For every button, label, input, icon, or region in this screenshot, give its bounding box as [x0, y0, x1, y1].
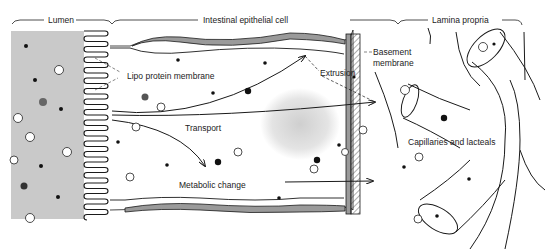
label-basement-line2: membrane — [373, 58, 414, 68]
label-lumen: Lumen — [48, 15, 74, 25]
stippled-region — [260, 88, 340, 160]
region-headers: Lumen Intestinal epithelial cell Lamina … — [12, 15, 522, 25]
microvilli-border — [84, 31, 108, 220]
label-lamina-propria: Lamina propria — [432, 15, 489, 25]
label-lipoprotein-membrane: Lipo protein membrane — [127, 71, 215, 81]
label-extrusion: Extrusion — [320, 68, 356, 78]
lipid-absorption-diagram: Lumen Intestinal epithelial cell Lamina … — [0, 0, 550, 249]
label-capillaries-lacteals: Capillaries and lacteals — [408, 137, 495, 147]
label-metabolic-change: Metabolic change — [179, 180, 246, 190]
label-basement-line1: Basement — [373, 47, 412, 57]
label-transport: Transport — [185, 123, 222, 133]
label-intestinal-cell: Intestinal epithelial cell — [203, 15, 288, 25]
lumen-region — [10, 31, 84, 223]
